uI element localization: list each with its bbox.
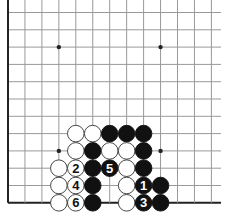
white-stone-icon — [118, 177, 135, 194]
star-point-icon — [158, 45, 162, 49]
white-stone — [118, 195, 135, 212]
star-point-icon — [57, 149, 61, 153]
black-stone-icon — [152, 177, 169, 194]
black-stone — [118, 125, 135, 142]
move-number-label: 1 — [140, 178, 147, 193]
black-stone-icon — [135, 125, 152, 142]
black-stone-icon — [84, 160, 101, 177]
white-stone-icon — [101, 143, 118, 160]
black-stone-move-3: 3 — [135, 195, 152, 212]
move-number-label: 4 — [72, 178, 80, 193]
black-stone — [152, 177, 169, 194]
white-stone-icon — [51, 177, 68, 194]
star-point-icon — [57, 45, 61, 49]
black-stone — [84, 177, 101, 194]
white-stone — [118, 177, 135, 194]
white-stone-move-2: 2 — [68, 160, 85, 177]
black-stone — [84, 143, 101, 160]
white-stone-icon — [68, 143, 85, 160]
move-number-label: 2 — [72, 161, 79, 176]
white-stone-icon — [118, 160, 135, 177]
white-stone-icon — [51, 195, 68, 212]
go-board[interactable]: 254163 — [0, 0, 228, 217]
black-stone-icon — [135, 143, 152, 160]
black-stone-icon — [84, 143, 101, 160]
black-stone-icon — [84, 177, 101, 194]
black-stone-icon — [84, 195, 101, 212]
white-stone — [118, 143, 135, 160]
white-stone-icon — [68, 125, 85, 142]
white-stone — [51, 160, 68, 177]
move-number-label: 5 — [106, 161, 113, 176]
black-stone-icon — [118, 125, 135, 142]
white-stone — [84, 125, 101, 142]
black-stone-icon — [135, 160, 152, 177]
white-stone-icon — [51, 160, 68, 177]
white-stone-icon — [84, 125, 101, 142]
white-stone — [101, 143, 118, 160]
black-stone-icon — [101, 125, 118, 142]
white-stone — [51, 177, 68, 194]
black-stone-move-5: 5 — [101, 160, 118, 177]
black-stone — [135, 125, 152, 142]
white-stone — [68, 143, 85, 160]
white-stone-icon — [118, 143, 135, 160]
black-stone — [152, 195, 169, 212]
white-stone-icon — [118, 195, 135, 212]
black-stone — [101, 125, 118, 142]
white-stone — [51, 195, 68, 212]
black-stone-icon — [152, 195, 169, 212]
black-stone — [135, 160, 152, 177]
star-point-icon — [158, 149, 162, 153]
white-stone-move-4: 4 — [68, 177, 85, 194]
black-stone-move-1: 1 — [135, 177, 152, 194]
white-stone-move-6: 6 — [68, 195, 85, 212]
white-stone — [68, 125, 85, 142]
black-stone — [84, 160, 101, 177]
move-number-label: 6 — [72, 195, 79, 210]
move-number-label: 3 — [140, 195, 147, 210]
white-stone — [118, 160, 135, 177]
black-stone — [84, 195, 101, 212]
black-stone — [135, 143, 152, 160]
